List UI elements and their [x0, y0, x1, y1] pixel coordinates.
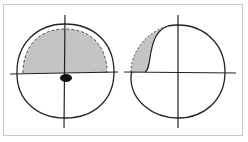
left-visual-field — [10, 15, 118, 128]
visual-field-diagram — [0, 0, 248, 142]
left-dark-spot — [60, 74, 72, 82]
right-visual-field — [124, 15, 236, 128]
right-horizontal-axis — [124, 72, 236, 73]
right-shaded-region — [131, 26, 168, 73]
